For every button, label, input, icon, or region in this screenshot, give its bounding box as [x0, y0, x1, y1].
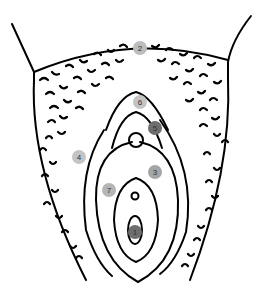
marker-4: 4	[72, 150, 86, 164]
left-outline	[12, 24, 34, 80]
marker-3: 3	[148, 165, 162, 179]
clitoris-shape	[129, 133, 143, 147]
marker-2: 2	[133, 41, 147, 55]
right-outline	[228, 16, 251, 78]
marker-1: 1	[128, 225, 142, 239]
urethra-shape	[132, 193, 139, 200]
outer-left-lines	[84, 130, 112, 276]
inner-contour	[114, 178, 158, 262]
marker-7: 7	[102, 183, 116, 197]
top-curve	[34, 48, 228, 72]
left-inner-line	[34, 80, 86, 280]
marker-5: 5	[148, 121, 162, 135]
outer-right-lines	[160, 120, 188, 274]
diagram-drawing	[0, 0, 261, 304]
marker-6: 6	[133, 95, 147, 109]
